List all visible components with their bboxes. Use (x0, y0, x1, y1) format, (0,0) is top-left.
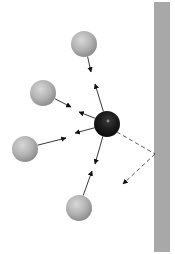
reflected-dashed-arrow-icon (123, 154, 155, 184)
arrow-line-icon (88, 56, 91, 72)
arrow-pair-upper-left (55, 99, 96, 119)
sphere-bottom-icon (66, 195, 92, 221)
incident-dashed-line (117, 132, 155, 154)
arrow-line-icon (79, 112, 95, 118)
arrow-line-icon (83, 171, 92, 196)
arrow-line-icon (95, 84, 103, 112)
arrow-pair-bottom (83, 136, 103, 195)
sphere-top-icon (71, 31, 97, 57)
sphere-lower-left-icon (12, 136, 38, 162)
central-sphere (94, 111, 120, 137)
arrow-pair-top (88, 56, 104, 111)
sphere-upper-left-icon (30, 80, 56, 106)
central-sphere-icon (94, 111, 120, 137)
sphere-highlight (107, 120, 110, 123)
diagram-svg (0, 0, 175, 254)
arrow-line-icon (37, 138, 66, 145)
arrow-line-icon (55, 99, 71, 107)
arrow-line-icon (95, 136, 103, 164)
interaction-lines (37, 56, 103, 195)
wall (154, 2, 170, 252)
arrow-pair-lower-left (37, 128, 94, 145)
arrow-line-icon (75, 128, 95, 133)
diagram-canvas (0, 0, 175, 254)
reflection-trajectory (117, 132, 155, 184)
